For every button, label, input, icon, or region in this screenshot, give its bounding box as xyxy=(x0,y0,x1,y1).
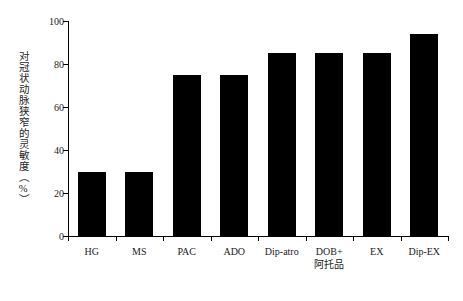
bar xyxy=(363,53,391,236)
y-tick-label: 60 xyxy=(54,102,64,113)
x-label-line: Dip-EX xyxy=(408,246,440,257)
y-tick-label: 80 xyxy=(54,59,64,70)
plot-area: 020406080100 HGMSPACADODip-atroDOB+阿托品EX… xyxy=(68,21,448,236)
x-tick-mark xyxy=(401,236,402,241)
x-axis-category-label: PAC xyxy=(177,245,196,258)
y-tick-label: 0 xyxy=(59,231,64,242)
y-tick-label: 40 xyxy=(54,145,64,156)
x-tick-mark xyxy=(116,236,117,241)
x-label-line: EX xyxy=(370,246,383,257)
x-label-line: ADO xyxy=(223,246,245,257)
x-tick-mark xyxy=(211,236,212,241)
x-axis-category-label: ADO xyxy=(223,245,245,258)
bar xyxy=(410,34,438,236)
y-axis-title: 对冠状动脉狭窄的灵敏度（%） xyxy=(11,18,35,238)
y-axis-line xyxy=(68,21,69,236)
x-axis-category-label: DOB+阿托品 xyxy=(314,245,344,271)
bar xyxy=(220,75,248,236)
bar xyxy=(268,53,296,236)
x-label-line: 阿托品 xyxy=(314,258,344,271)
x-axis-category-label: EX xyxy=(370,245,383,258)
bar xyxy=(125,172,153,237)
x-label-line: HG xyxy=(85,246,99,257)
x-tick-mark xyxy=(163,236,164,241)
x-tick-mark xyxy=(353,236,354,241)
bar xyxy=(78,172,106,237)
x-tick-mark xyxy=(68,236,69,241)
x-axis-category-label: HG xyxy=(85,245,99,258)
bar-chart-figure: 对冠状动脉狭窄的灵敏度（%） 020406080100 HGMSPACADODi… xyxy=(0,0,463,301)
bar xyxy=(173,75,201,236)
bar xyxy=(315,53,343,236)
x-axis-category-label: MS xyxy=(132,245,146,258)
x-label-line: MS xyxy=(132,246,146,257)
y-tick-label: 100 xyxy=(49,16,64,27)
x-axis-category-label: Dip-EX xyxy=(408,245,440,258)
x-axis-category-label: Dip-atro xyxy=(265,245,299,258)
x-label-line: PAC xyxy=(177,246,196,257)
x-label-line: DOB+ xyxy=(316,246,343,257)
x-label-line: Dip-atro xyxy=(265,246,299,257)
x-tick-mark xyxy=(258,236,259,241)
x-tick-mark xyxy=(448,236,449,241)
y-tick-label: 20 xyxy=(54,188,64,199)
x-tick-mark xyxy=(306,236,307,241)
